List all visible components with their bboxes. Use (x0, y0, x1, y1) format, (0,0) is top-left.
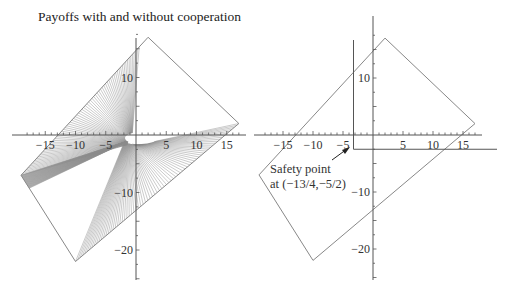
x-tick-label: 5 (400, 138, 406, 152)
chart-right: −15−10−55101510−10−20 (254, 0, 507, 289)
y-tick-label: −20 (351, 242, 370, 256)
y-tick-label: −10 (114, 186, 133, 200)
figure: Payoffs with and without cooperation −15… (0, 0, 507, 289)
x-tick-label: −5 (99, 138, 112, 152)
safety-point-annotation: Safety point at (−13/4,−5/2) (270, 162, 346, 192)
y-tick-label: −10 (351, 185, 370, 199)
x-tick-label: 15 (457, 138, 469, 152)
x-tick-label: −15 (36, 138, 55, 152)
x-tick-label: 15 (221, 138, 233, 152)
annotation-line2: at (−13/4,−5/2) (270, 177, 346, 192)
annotation-line1: Safety point (270, 162, 346, 177)
x-tick-label: −10 (304, 138, 323, 152)
y-tick-label: −20 (114, 243, 133, 257)
chart-left: −15−10−55101510−10−20 (0, 0, 254, 289)
y-tick-label: 10 (121, 71, 133, 85)
x-tick-label: 10 (427, 138, 439, 152)
x-tick-label: 5 (163, 138, 169, 152)
y-tick-label: 10 (358, 71, 370, 85)
x-tick-label: 10 (191, 138, 203, 152)
x-tick-label: −15 (274, 138, 293, 152)
x-tick-label: −10 (66, 138, 85, 152)
